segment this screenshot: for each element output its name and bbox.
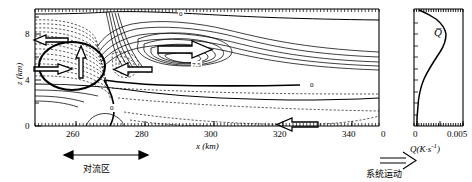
arrow-upper-outflow-east <box>158 41 212 58</box>
flow-arrows <box>34 35 318 131</box>
q-bar-symbol: Q̅ <box>434 26 442 38</box>
profile-axis-title: Q(K·s-1) <box>410 142 440 154</box>
profile-tick-0: 0 <box>381 129 386 139</box>
x-tick-260: 260 <box>66 129 80 139</box>
system-motion-label: 系统运动 <box>366 167 402 180</box>
x-tick-300: 300 <box>204 129 218 139</box>
arrow-rear-inflow-jet <box>114 63 152 76</box>
profile-axis-title-close: ) <box>437 144 440 154</box>
contour-label-zero-mid: 0 <box>309 81 315 89</box>
contour-label-75: 7.5 <box>191 61 202 69</box>
cross-section-plot <box>0 0 472 182</box>
figure-container: 260 280 300 320 340 0 4 8 z (km) x (km) … <box>0 0 472 182</box>
y-tick-4: 4 <box>25 75 30 85</box>
profile-tick-0b: 0 <box>413 129 418 139</box>
negative-contours-lower <box>112 88 379 126</box>
x-tick-340: 340 <box>342 129 356 139</box>
negative-contours <box>35 20 110 100</box>
contour-label-zero-low: 0 <box>109 104 115 112</box>
x-tick-280: 280 <box>135 129 149 139</box>
profile-y-ticks <box>414 23 418 115</box>
convective-zone-extent-arrow <box>64 151 148 159</box>
arrow-updraft <box>76 46 86 78</box>
y-tick-0: 0 <box>25 121 30 131</box>
x-tick-320: 320 <box>273 129 287 139</box>
positive-contours <box>35 12 379 126</box>
y-axis-title: z (km) <box>14 63 24 85</box>
contour-field <box>35 12 379 126</box>
convective-zone-label: 对流区 <box>83 162 110 175</box>
contour-label-zero-top: 0 <box>178 10 184 18</box>
profile-tick-0005: 0.005 <box>447 129 467 139</box>
y-tick-8: 8 <box>25 29 30 39</box>
profile-axis-title-main: Q(K·s <box>410 144 431 154</box>
x-axis-title: x (km) <box>196 141 219 151</box>
